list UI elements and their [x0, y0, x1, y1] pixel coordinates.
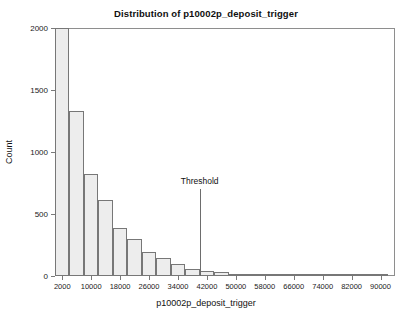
histogram-bar: [359, 274, 373, 276]
histogram-bar: [243, 274, 257, 276]
x-axis-tick-mark: [381, 276, 382, 280]
histogram-bar: [113, 228, 127, 276]
x-axis-tick-mark: [265, 276, 266, 280]
x-axis-tick-mark: [178, 276, 179, 280]
y-axis-tick-label: 0: [8, 272, 48, 281]
y-axis-tick-label: 500: [8, 210, 48, 219]
x-axis-tick-mark: [120, 276, 121, 280]
x-axis-tick-mark: [149, 276, 150, 280]
x-axis-tick-label: 42000: [196, 282, 217, 291]
threshold-label: Threshold: [181, 176, 219, 186]
histogram-chart: Distribution of p10002p_deposit_trigger …: [0, 0, 412, 323]
histogram-bar: [171, 264, 185, 276]
histogram-bar: [98, 200, 112, 276]
histogram-bar: [84, 174, 98, 276]
y-axis-tick-label: 1000: [8, 148, 48, 157]
x-axis-tick-mark: [352, 276, 353, 280]
x-axis-tick-mark: [236, 276, 237, 280]
threshold-line: [200, 189, 201, 276]
x-axis-tick-mark: [207, 276, 208, 280]
x-axis-tick-mark: [91, 276, 92, 280]
y-axis-tick-label: 2000: [8, 24, 48, 33]
x-axis-tick-label: 90000: [370, 282, 391, 291]
x-axis-tick-mark: [62, 276, 63, 280]
x-axis-label: p10002p_deposit_trigger: [0, 298, 412, 308]
x-axis-tick-mark: [294, 276, 295, 280]
histogram-bar: [142, 252, 156, 276]
x-axis-tick-label: 18000: [110, 282, 131, 291]
chart-title: Distribution of p10002p_deposit_trigger: [0, 8, 412, 19]
histogram-bar: [301, 274, 315, 276]
x-axis-tick-label: 10000: [81, 282, 102, 291]
x-axis-tick-label: 74000: [312, 282, 333, 291]
histogram-bar: [55, 28, 69, 276]
x-axis-tick-label: 58000: [254, 282, 275, 291]
histogram-bar: [214, 272, 228, 276]
x-axis-tick-label: 34000: [168, 282, 189, 291]
histogram-bar: [272, 274, 286, 276]
x-axis-tick-label: 82000: [341, 282, 362, 291]
histogram-bar: [127, 239, 141, 276]
y-axis-tick-mark: [51, 276, 55, 277]
plot-area: Threshold: [55, 28, 395, 276]
x-axis-tick-label: 2000: [54, 282, 71, 291]
histogram-bar: [185, 269, 199, 276]
x-axis-tick-label: 26000: [139, 282, 160, 291]
x-axis-tick-mark: [323, 276, 324, 280]
x-axis-tick-label: 66000: [283, 282, 304, 291]
x-axis-tick-label: 50000: [225, 282, 246, 291]
histogram-bar: [330, 274, 344, 276]
histogram-bar: [156, 258, 170, 276]
histogram-bar: [69, 111, 83, 276]
y-axis-tick-label: 1500: [8, 86, 48, 95]
